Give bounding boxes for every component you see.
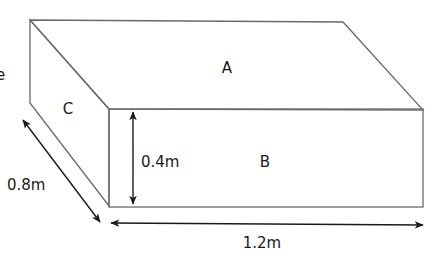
- length-label: 1.2m: [243, 234, 281, 252]
- depth-dimension-arrow: [23, 120, 100, 222]
- cropped-text-fragment: e: [0, 66, 5, 84]
- cuboid-diagram: e A B C 0.4m 0.8m 1.2m: [0, 0, 432, 255]
- length-dimension-arrow: [111, 223, 423, 225]
- face-label-b: B: [260, 153, 270, 171]
- face-label-a: A: [222, 59, 233, 77]
- height-label: 0.4m: [141, 153, 179, 171]
- face-label-c: C: [63, 100, 73, 118]
- depth-label: 0.8m: [7, 176, 45, 194]
